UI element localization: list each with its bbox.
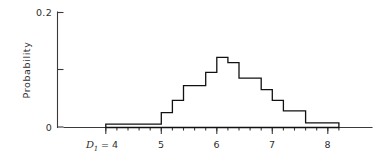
x-tick-label-7: 7 <box>269 139 275 150</box>
x-var-equals-four: = 4 <box>101 139 118 150</box>
x-tick-label-6: 6 <box>214 139 220 150</box>
y-tick-label-top: 0.2 <box>36 7 52 18</box>
x-tick-label-8: 8 <box>325 139 331 150</box>
histogram-outline <box>106 57 339 127</box>
x-axis-variable-label: D 1 = 4 <box>85 139 118 153</box>
probability-histogram-chart: 0.2 0 Probability <box>0 0 382 162</box>
x-tick-label-5: 5 <box>158 139 164 150</box>
x-var-subscript: 1 <box>94 145 98 153</box>
y-tick-label-bottom: 0 <box>46 122 52 133</box>
y-axis-title: Probability <box>21 42 32 99</box>
x-var-letter: D <box>85 139 94 150</box>
histogram-figure: 0.2 0 Probability <box>0 0 382 162</box>
